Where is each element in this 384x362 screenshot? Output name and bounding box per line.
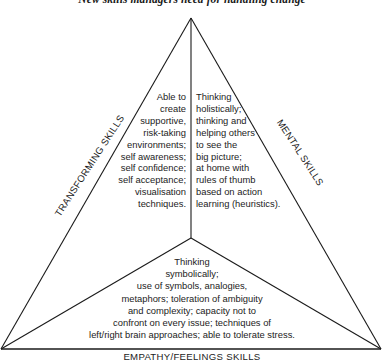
text-line: helping others [196, 127, 306, 139]
text-line: holistically; [196, 103, 306, 115]
text-line: risk-taking [106, 127, 186, 139]
text-line: and complexity; capacity not to [40, 305, 344, 317]
text-line: symbolically; [40, 268, 344, 280]
text-line: based on action [196, 186, 306, 198]
text-line: learning (heuristics). [196, 198, 306, 210]
text-line: self acceptance; [106, 174, 186, 186]
text-line: Thinking [40, 256, 344, 268]
text-line: visualisation [106, 186, 186, 198]
text-line: self confidence; [106, 162, 186, 174]
text-line: confront on every issue; techniques of [40, 317, 344, 329]
mental-skills-text: Thinking holistically; thinking and help… [196, 91, 306, 210]
transforming-skills-text: Able to create supportive, risk-taking e… [106, 91, 186, 210]
text-line: use of symbols, analogies, [40, 280, 344, 292]
empathy-skills-text: Thinking symbolically; use of symbols, a… [40, 256, 344, 341]
text-line: rules of thumb [196, 174, 306, 186]
text-line: to see the [196, 139, 306, 151]
text-line: thinking and [196, 115, 306, 127]
empathy-feelings-skills-label: EMPATHY/FEELINGS SKILLS [0, 351, 384, 362]
text-line: big picture; [196, 151, 306, 163]
text-line: metaphors; toleration of ambiguity [40, 293, 344, 305]
text-line: create [106, 103, 186, 115]
text-line: at home with [196, 162, 306, 174]
text-line: self awareness; [106, 151, 186, 163]
text-line: techniques. [106, 198, 186, 210]
text-line: Thinking [196, 91, 306, 103]
text-line: environments; [106, 139, 186, 151]
text-line: supportive, [106, 115, 186, 127]
text-line: Able to [106, 91, 186, 103]
text-line: left/right brain approaches; able to tol… [40, 329, 344, 341]
